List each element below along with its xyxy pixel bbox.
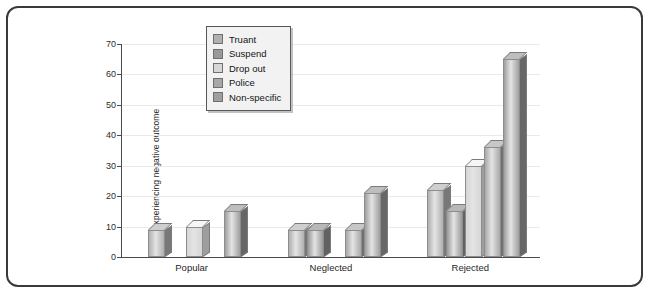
gridline bbox=[122, 105, 540, 106]
bar-side bbox=[520, 54, 527, 257]
x-axis-line bbox=[121, 257, 540, 258]
bar-side bbox=[241, 207, 248, 257]
bar bbox=[148, 230, 165, 257]
bar-face bbox=[364, 193, 381, 257]
bar-side bbox=[203, 222, 210, 257]
bar-face bbox=[224, 211, 241, 257]
y-axis-tick-label: 60 bbox=[90, 69, 116, 79]
legend-label: Truant bbox=[229, 34, 256, 45]
bar-face bbox=[446, 211, 463, 257]
legend-label: Non-specific bbox=[229, 92, 281, 103]
legend-swatch bbox=[213, 78, 223, 88]
bar bbox=[186, 227, 203, 257]
bar bbox=[446, 211, 463, 257]
legend-item: Police bbox=[213, 76, 281, 91]
bar-side bbox=[381, 188, 388, 257]
y-axis-tick-label: 70 bbox=[90, 39, 116, 49]
y-axis-tick-label: 30 bbox=[90, 161, 116, 171]
gridline bbox=[122, 135, 540, 136]
y-axis-tick-label: 40 bbox=[90, 130, 116, 140]
bar-face bbox=[148, 230, 165, 257]
legend-swatch bbox=[213, 63, 223, 73]
legend-swatch bbox=[213, 49, 223, 59]
legend-item: Truant bbox=[213, 32, 281, 47]
x-axis-label-rejected: Rejected bbox=[452, 262, 490, 273]
bar bbox=[307, 230, 324, 257]
legend-swatch bbox=[213, 92, 223, 102]
legend-label: Police bbox=[229, 77, 255, 88]
bar bbox=[503, 59, 520, 257]
legend-item: Non-specific bbox=[213, 90, 281, 105]
bar bbox=[224, 211, 241, 257]
legend-label: Suspend bbox=[229, 48, 267, 59]
chart-legend: TruantSuspendDrop outPoliceNon-specific bbox=[206, 26, 291, 111]
bar-face bbox=[345, 230, 362, 257]
bar-face bbox=[427, 190, 444, 257]
y-axis-line bbox=[121, 44, 122, 257]
x-axis-label-neglected: Neglected bbox=[310, 262, 353, 273]
chart-figure: % experiencing negative outcome 01020304… bbox=[0, 0, 651, 295]
y-axis-tick-label: 0 bbox=[90, 252, 116, 262]
legend-item: Drop out bbox=[213, 61, 281, 76]
bar bbox=[465, 166, 482, 257]
bar bbox=[345, 230, 362, 257]
plot-area: % experiencing negative outcome 01020304… bbox=[122, 44, 540, 257]
y-axis-tick-label: 20 bbox=[90, 191, 116, 201]
bar-face bbox=[465, 166, 482, 257]
gridline bbox=[122, 44, 540, 45]
legend-item: Suspend bbox=[213, 47, 281, 62]
y-axis-tick-label: 10 bbox=[90, 222, 116, 232]
legend-swatch bbox=[213, 34, 223, 44]
bar-face bbox=[484, 147, 501, 257]
bar-face bbox=[288, 230, 305, 257]
bar bbox=[427, 190, 444, 257]
bar bbox=[288, 230, 305, 257]
bar-face bbox=[186, 227, 203, 257]
legend-label: Drop out bbox=[229, 63, 265, 74]
y-axis-tick-label: 50 bbox=[90, 100, 116, 110]
bar-face bbox=[307, 230, 324, 257]
bar-side bbox=[165, 225, 172, 257]
bar-face bbox=[503, 59, 520, 257]
bar bbox=[484, 147, 501, 257]
bar bbox=[364, 193, 381, 257]
bar-side bbox=[324, 225, 331, 257]
gridline bbox=[122, 74, 540, 75]
x-axis-label-popular: Popular bbox=[175, 262, 208, 273]
